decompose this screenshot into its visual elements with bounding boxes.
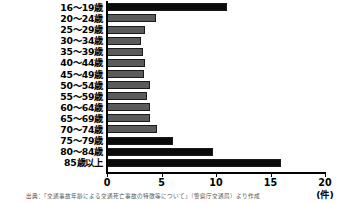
bar-track [107,2,345,13]
bar-row: 45～49歳 [0,69,345,80]
bar [107,92,147,100]
bar-row-label: 85歳以上 [0,157,103,168]
bar [107,159,281,167]
bar-row: 55～59歳 [0,91,345,102]
bar-track [107,80,345,91]
x-tick [271,172,272,177]
y-axis-line [106,1,108,173]
bar-track [107,113,345,124]
bar [107,114,150,122]
bar [107,70,144,78]
bar-row: 35～39歳 [0,46,345,57]
bar-track [107,69,345,80]
x-tick [162,172,163,177]
x-tick-label: 15 [264,177,277,188]
bar-row-label: 20～24歳 [0,13,103,24]
x-tick [325,172,326,177]
bar-track [107,157,345,168]
x-tick-label: 0 [104,177,111,188]
bar-row-label: 25～29歳 [0,24,103,35]
bar-row: 50～54歳 [0,80,345,91]
bar-row: 20～24歳 [0,13,345,24]
bar-row: 60～64歳 [0,102,345,113]
bar-track [107,57,345,68]
bar [107,103,150,111]
bar [107,37,141,45]
chart-footnote: 出典：「交通事故年齢による交通死亡事故の特徴等について」（警察庁交通局）より作成 [26,193,326,200]
bar-row-label: 30～34歳 [0,35,103,46]
bar-track [107,124,345,135]
bar-row: 16～19歳 [0,2,345,13]
x-tick [107,172,108,177]
bar-rows: 16～19歳20～24歳25～29歳30～34歳35～39歳40～44歳45～4… [0,2,345,168]
x-tick-label: 10 [209,177,222,188]
bar-row-label: 16～19歳 [0,2,103,13]
bar-row-label: 65～69歳 [0,113,103,124]
bar-row-label: 50～54歳 [0,80,103,91]
bar-row: 75～79歳 [0,135,345,146]
bar-row-label: 70～74歳 [0,124,103,135]
bar-row-label: 60～64歳 [0,102,103,113]
x-tick-label: 5 [158,177,165,188]
bar [107,14,156,22]
bar-row: 40～44歳 [0,57,345,68]
bar-chart: 16～19歳20～24歳25～29歳30～34歳35～39歳40～44歳45～4… [0,0,345,203]
plot-area: 16～19歳20～24歳25～29歳30～34歳35～39歳40～44歳45～4… [0,0,345,176]
bar [107,48,143,56]
bar-row: 65～69歳 [0,113,345,124]
bar-track [107,135,345,146]
bar-row-label: 55～59歳 [0,91,103,102]
x-tick [216,172,217,177]
bar-row: 70～74歳 [0,124,345,135]
bar-row-label: 80～84歳 [0,146,103,157]
bar [107,3,227,11]
bar-row-label: 75～79歳 [0,135,103,146]
bar [107,148,213,156]
bar-track [107,91,345,102]
bar-row: 80～84歳 [0,146,345,157]
bar-track [107,46,345,57]
bar-row-label: 45～49歳 [0,69,103,80]
bar [107,59,145,67]
bar [107,137,173,145]
bar-row: 85歳以上 [0,157,345,168]
bar-track [107,13,345,24]
bar-track [107,146,345,157]
bar [107,81,150,89]
bar-row: 25～29歳 [0,24,345,35]
bar-track [107,24,345,35]
bar-row-label: 35～39歳 [0,46,103,57]
bar [107,125,157,133]
bar-track [107,35,345,46]
bar [107,26,145,34]
bar-row: 30～34歳 [0,35,345,46]
bar-track [107,102,345,113]
bar-row-label: 40～44歳 [0,57,103,68]
